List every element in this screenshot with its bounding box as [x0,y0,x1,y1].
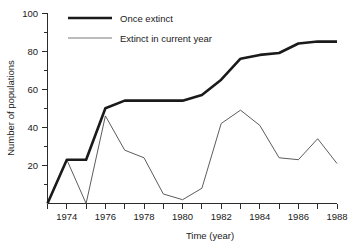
chart-svg: 100 80 60 40 20 1974 [0,0,355,246]
y-tick-label-40: 40 [27,122,38,133]
x-tick-label-1986: 1986 [288,211,309,222]
x-tick-label-1974: 1974 [56,211,77,222]
chart-figure: 100 80 60 40 20 1974 [0,0,355,246]
y-axis-title: Number of populations [5,60,16,156]
x-axis-title: Time (year) [186,230,234,241]
y-tick-label-60: 60 [27,84,38,95]
legend-label-extinct-in-current-year: Extinct in current year [120,33,212,44]
y-tick-label-80: 80 [27,46,38,57]
legend-label-once-extinct: Once extinct [120,13,173,24]
y-tick-label-100: 100 [22,8,38,19]
x-tick-label-1988: 1988 [326,211,347,222]
y-tick-label-20: 20 [27,160,38,171]
x-tick-label-1976: 1976 [95,211,116,222]
x-tick-label-1980: 1980 [172,211,193,222]
x-tick-label-1982: 1982 [211,211,232,222]
x-tick-label-1978: 1978 [133,211,154,222]
x-tick-label-1984: 1984 [249,211,270,222]
